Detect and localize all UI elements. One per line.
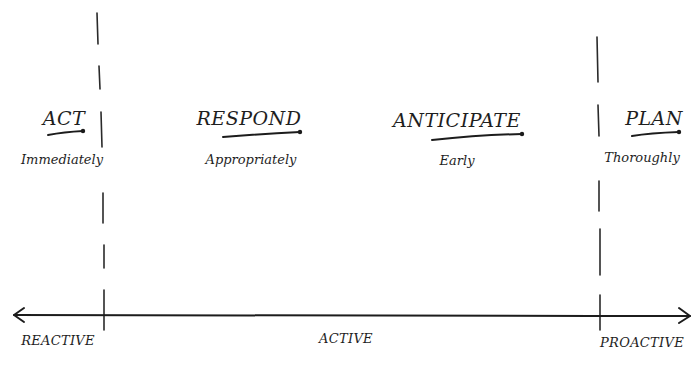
axis-arrow <box>14 308 690 323</box>
divider-left <box>97 13 104 330</box>
stage-subtext-early: Early <box>440 153 475 168</box>
diagram-lines <box>0 0 698 365</box>
stage-subtext-appropriately: Appropriately <box>206 152 297 167</box>
stage-subtext-thoroughly: Thoroughly <box>604 150 679 165</box>
stage-heading-plan: PLAN <box>625 107 683 129</box>
stage-heading-respond: RESPOND <box>197 107 302 129</box>
stage-heading-anticipate: ANTICIPATE <box>393 109 521 131</box>
reactive-proactive-diagram: ACT Immediately RESPOND Appropriately AN… <box>0 0 698 365</box>
axis-label-reactive: REACTIVE <box>21 333 95 348</box>
divider-right <box>597 37 600 330</box>
stage-heading-act: ACT <box>43 107 85 129</box>
axis-label-proactive: PROACTIVE <box>600 335 684 350</box>
stage-subtext-immediately: Immediately <box>21 152 103 167</box>
heading-underlines <box>48 130 680 140</box>
axis-label-active: ACTIVE <box>319 331 373 346</box>
